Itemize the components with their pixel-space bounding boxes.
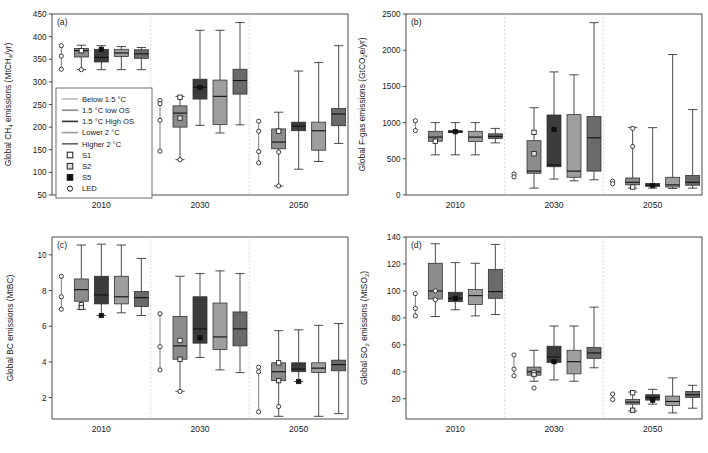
marker-led — [532, 386, 536, 390]
x-tick-label: 2010 — [446, 200, 465, 210]
marker-s1 — [433, 139, 437, 143]
y-tick-label: 6 — [42, 322, 47, 331]
marker-s5 — [552, 360, 556, 364]
y-tick-label: 1000 — [382, 119, 401, 128]
box-iqr — [134, 291, 148, 306]
legend-marker-led — [67, 186, 72, 191]
marker-s5 — [198, 336, 202, 340]
x-tick-label: 2010 — [92, 200, 111, 210]
x-tick-label: 2050 — [643, 200, 662, 210]
marker-led — [277, 404, 281, 408]
box-iqr — [567, 115, 581, 178]
y-tick-label: 0 — [396, 191, 401, 200]
marker-s5 — [650, 183, 654, 187]
marker-s1 — [630, 185, 634, 189]
panel-letter: (d) — [411, 240, 422, 250]
marker-led — [178, 158, 182, 162]
marker-led — [512, 353, 516, 357]
panel-d-so2: 20406080100120140Global SO2 emissions (M… — [354, 227, 708, 453]
legend-label: S1 — [82, 151, 91, 160]
y-tick-label: 450 — [33, 10, 47, 19]
marker-s1 — [178, 338, 182, 342]
svg-text:Global F-gas emissions (GtCO2e: Global F-gas emissions (GtCO2e/yr) — [357, 37, 368, 171]
marker-led — [413, 306, 417, 310]
marker-s1 — [532, 130, 536, 134]
box-series-1 — [611, 179, 615, 186]
box-series-1 — [512, 172, 516, 179]
marker-led — [59, 67, 63, 71]
y-axis-title: Global BC emissions (MtBC) — [5, 275, 15, 382]
marker-led — [413, 292, 417, 296]
marker-led — [611, 397, 615, 401]
legend-label: Higher 2 °C — [82, 140, 122, 149]
marker-led — [59, 295, 63, 299]
y-tick-label: 100 — [33, 168, 47, 177]
box-iqr — [547, 115, 561, 167]
box-iqr — [527, 141, 541, 174]
x-tick-label: 2030 — [544, 200, 563, 210]
box-iqr — [468, 290, 482, 305]
marker-led — [158, 345, 162, 349]
x-tick-label: 2030 — [544, 424, 563, 434]
marker-led — [413, 128, 417, 132]
marker-led — [512, 374, 516, 378]
marker-led — [611, 392, 615, 396]
marker-s2 — [178, 116, 182, 120]
y-tick-label: 40 — [391, 368, 401, 377]
y-tick-label: 250 — [33, 101, 47, 110]
x-tick-label: 2010 — [92, 424, 111, 434]
legend-label: Lower 2 °C — [82, 128, 120, 137]
marker-led — [79, 68, 83, 72]
marker-led — [512, 175, 516, 179]
panel-c-plot: 246810Global BC emissions (MtBC)20102030… — [0, 227, 354, 453]
marker-s5 — [99, 47, 103, 51]
marker-led — [433, 289, 437, 293]
marker-led — [433, 298, 437, 302]
y-axis-title: Global F-gas emissions (GtCO2e/yr) — [357, 37, 368, 171]
marker-s1 — [79, 48, 83, 52]
panel-letter: (a) — [57, 17, 68, 27]
marker-led — [257, 119, 261, 123]
box-iqr — [213, 80, 227, 124]
box-iqr — [292, 363, 306, 372]
marker-led — [413, 314, 417, 318]
y-tick-label: 200 — [33, 123, 47, 132]
marker-s1 — [276, 129, 280, 133]
legend-label: 1.5 °C High OS — [82, 117, 134, 126]
box-iqr — [332, 109, 346, 126]
marker-s1 — [630, 391, 634, 395]
box-iqr — [213, 303, 227, 349]
marker-s5 — [453, 129, 457, 133]
legend-marker-s2 — [67, 163, 73, 169]
legend-marker-s5 — [67, 175, 73, 181]
y-tick-label: 1500 — [382, 82, 401, 91]
marker-s2 — [276, 378, 280, 382]
x-tick-label: 2050 — [643, 424, 662, 434]
scenario-legend: Below 1.5 °C1.5 °C low OS1.5 °C High OSL… — [56, 88, 152, 198]
y-tick-label: 8 — [42, 287, 47, 296]
y-tick-label: 20 — [391, 395, 401, 404]
x-tick-label: 2050 — [289, 424, 308, 434]
marker-s2 — [630, 408, 634, 412]
y-tick-label: 50 — [37, 191, 47, 200]
marker-led — [257, 365, 261, 369]
marker-led — [59, 307, 63, 311]
panel-c-bc: 246810Global BC emissions (MtBC)20102030… — [0, 227, 354, 453]
panel-b-plot: 05001000150020002500Global F-gas emissio… — [354, 0, 708, 227]
marker-led — [512, 367, 516, 371]
box-iqr — [468, 131, 482, 141]
box-iqr — [686, 175, 700, 185]
y-tick-label: 400 — [33, 33, 47, 42]
y-tick-label: 500 — [387, 155, 401, 164]
box-iqr — [488, 269, 502, 298]
marker-led — [158, 149, 162, 153]
y-tick-label: 2500 — [382, 10, 401, 19]
x-tick-label: 2010 — [446, 424, 465, 434]
y-axis-title: Global SO2 emissions (MtSO2) — [359, 271, 370, 385]
marker-s2 — [532, 372, 536, 376]
marker-s5 — [198, 85, 202, 89]
y-tick-label: 60 — [391, 341, 401, 350]
marker-s2 — [532, 152, 536, 156]
y-tick-label: 120 — [387, 260, 401, 269]
legend-label: S2 — [82, 162, 91, 171]
